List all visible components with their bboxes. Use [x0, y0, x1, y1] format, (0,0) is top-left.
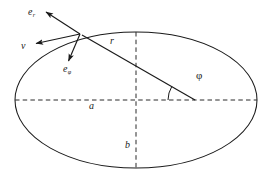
- semi-minor-axis-label: b: [125, 140, 130, 150]
- angle-arc: [168, 87, 172, 101]
- e-r-label-base: e: [28, 6, 32, 17]
- e-r-label: er: [28, 7, 35, 17]
- semi-major-axis-label: a: [89, 101, 94, 111]
- e-r-label-subscript: r: [33, 11, 35, 18]
- e-phi-label: eφ: [63, 64, 71, 74]
- unit-vector-e-phi-arrow: [69, 34, 81, 61]
- ellipse-diagram-figure: er v eφ r φ a b: [0, 0, 270, 175]
- unit-vector-e-r-arrow: [46, 12, 80, 34]
- e-phi-label-subscript: φ: [68, 68, 71, 75]
- radius-vector-arrow: [82, 35, 195, 100]
- e-phi-label-base: e: [63, 63, 67, 74]
- velocity-label: v: [21, 41, 25, 51]
- diagram-canvas: [0, 0, 270, 175]
- angle-label: φ: [196, 70, 202, 81]
- radius-label: r: [110, 36, 114, 46]
